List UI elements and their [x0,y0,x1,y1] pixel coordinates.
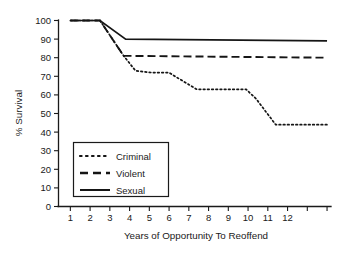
x-tick-label: 11 [263,212,273,223]
y-axis-title: % Survival [13,90,24,136]
x-tick-label: 8 [206,212,211,223]
y-tick-label: 20 [40,164,51,175]
y-tick-label: 30 [40,145,51,156]
y-tick-label: 90 [40,34,51,45]
chart-legend: CriminalViolentSexual [74,143,169,197]
y-tick-label: 40 [40,127,51,138]
legend-label-violent: Violent [116,168,145,179]
legend-label-criminal: Criminal [116,151,151,162]
x-tick-label: 3 [107,212,112,223]
series-group [70,21,327,125]
x-axis-title: Years of Opportunity To Reoffend [124,230,268,241]
chart-canvas: 0102030405060708090100 123456789101112 Y… [0,0,347,264]
x-tick-label: 6 [166,212,171,223]
series-line-sexual [70,21,327,41]
x-tick-label: 1 [68,212,73,223]
survival-chart: 0102030405060708090100 123456789101112 Y… [0,0,347,264]
y-tick-label: 0 [46,201,51,212]
x-tick-label: 9 [226,212,231,223]
y-axis-ticks: 0102030405060708090100 [35,15,58,212]
y-tick-label: 70 [40,71,51,82]
legend-label-sexual: Sexual [116,185,145,196]
x-axis-ticks: 123456789101112 [68,207,327,224]
y-tick-label: 100 [35,15,51,26]
y-tick-label: 50 [40,108,51,119]
x-tick-label: 4 [127,212,132,223]
y-tick-label: 10 [40,182,51,193]
x-tick-label: 10 [243,212,254,223]
x-tick-label: 7 [186,212,191,223]
y-tick-label: 60 [40,89,51,100]
x-tick-label: 2 [87,212,92,223]
y-tick-label: 80 [40,52,51,63]
x-tick-label: 5 [147,212,152,223]
x-tick-label: 12 [282,212,293,223]
series-line-criminal [70,21,327,125]
